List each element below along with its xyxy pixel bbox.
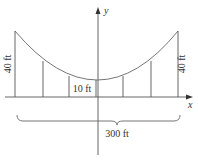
span-brace bbox=[17, 115, 180, 125]
y-axis-arrow-icon bbox=[96, 7, 101, 14]
center-height-label: 10 ft bbox=[73, 83, 92, 94]
left-height-label: 40 ft bbox=[2, 54, 13, 73]
x-axis-label: x bbox=[187, 99, 193, 110]
y-axis-label: y bbox=[103, 5, 109, 16]
bridge-diagram: x y 40 ft 40 ft 10 ft 300 ft bbox=[0, 0, 198, 160]
span-label: 300 ft bbox=[105, 128, 129, 139]
right-height-label: 40 ft bbox=[176, 54, 187, 73]
cable-curve bbox=[15, 31, 178, 80]
